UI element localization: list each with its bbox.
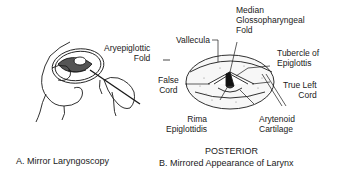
label-arytenoid-cartilage: Arytenoid Cartilage: [259, 114, 295, 134]
label-line: Epiglottis: [277, 58, 319, 68]
label-true-left-cord: True Left Cord: [283, 80, 317, 100]
label-tubercle-of-epiglottis: Tubercle of Epiglottis: [277, 48, 319, 68]
larynx-illustration: [186, 55, 274, 109]
label-line: False: [158, 75, 179, 85]
label-false-cord: False Cord: [158, 75, 179, 95]
label-line: Glossopharyngeal: [236, 15, 305, 25]
label-rima-epiglottidis: Rima Epiglottidis: [166, 114, 207, 134]
orientation-label: POSTERIOR: [205, 146, 258, 157]
label-line: True Left: [283, 80, 317, 90]
label-line: Arytenoid: [259, 114, 295, 124]
label-median-glossopharyngeal-fold: Median Glossopharyngeal Fold: [236, 5, 305, 35]
label-line: Epiglottidis: [166, 124, 207, 134]
label-line: Cord: [283, 90, 317, 100]
label-line: Tubercle of: [277, 48, 319, 58]
label-aryepiglottic-fold: Aryepiglottic Fold: [104, 43, 150, 63]
label-vallecula: Vallecula: [176, 35, 210, 45]
caption-panel-a: A. Mirror Laryngoscopy: [16, 156, 109, 167]
label-line: Fold: [104, 53, 150, 63]
label-line: Median: [236, 5, 305, 15]
caption-panel-b: B. Mirrored Appearance of Larynx: [159, 158, 294, 169]
label-line: Cartilage: [259, 124, 295, 134]
label-line: Cord: [158, 85, 179, 95]
label-line: Rima: [166, 114, 207, 124]
label-line: Fold: [236, 25, 305, 35]
label-line: Aryepiglottic: [104, 43, 150, 53]
